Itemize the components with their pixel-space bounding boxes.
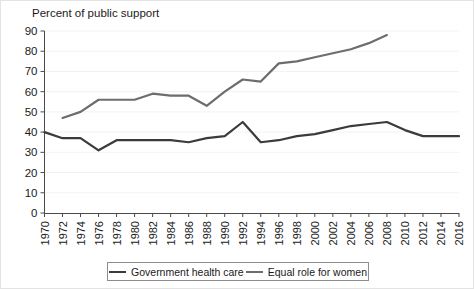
y-tick-label: 80 [25,45,38,57]
x-tick-label: 1978 [111,221,123,245]
x-axis-ticks-group: 1970197219741976197819801982198419861988… [39,213,466,245]
legend-item-government-health-care: Government health care [109,266,244,278]
x-tick-label: 2010 [399,221,411,245]
x-tick-label: 2008 [381,221,393,245]
y-tick-label: 0 [31,207,37,219]
y-tick-label: 30 [25,146,38,158]
legend-line-swatch-health-icon [109,271,126,273]
y-tick-label: 70 [25,65,38,77]
x-tick-label: 1984 [165,221,177,245]
x-tick-label: 1972 [57,221,69,245]
x-tick-label: 2004 [345,221,357,245]
x-tick-label: 1990 [219,221,231,245]
legend-line-swatch-equal-icon [246,271,263,273]
chart-plot-area: 0102030405060708090 19701972197419761978… [1,1,474,289]
x-tick-label: 2002 [327,221,339,245]
x-tick-label: 1970 [39,221,51,245]
y-tick-label: 50 [25,106,38,118]
gridlines-group [45,31,460,193]
x-tick-label: 1982 [147,221,159,245]
legend-label-equal-role-for-women: Equal role for women [268,266,367,278]
data-series-group [45,35,460,150]
chart-container: Percent of public support 01020304050607… [0,0,474,289]
x-tick-label: 1994 [255,221,267,245]
x-tick-label: 2012 [417,221,429,245]
x-tick-label: 1986 [183,221,195,245]
y-tick-label: 40 [25,126,38,138]
legend-item-equal-role-for-women: Equal role for women [246,266,367,278]
x-tick-label: 2000 [309,221,321,245]
x-tick-label: 1976 [93,221,105,245]
x-tick-label: 1974 [75,221,87,245]
series-line-government-health-care [45,122,460,150]
y-tick-label: 60 [25,86,38,98]
y-tick-label: 20 [25,167,38,179]
x-tick-label: 2006 [363,221,375,245]
chart-legend: Government health care Equal role for wo… [107,262,369,281]
x-tick-label: 1992 [237,221,249,245]
legend-label-government-health-care: Government health care [131,266,244,278]
x-tick-label: 2014 [435,221,447,245]
series-line-equal-role-for-women [63,35,387,118]
y-tick-label: 10 [25,187,38,199]
y-tick-label: 90 [25,25,38,37]
x-tick-label: 1980 [129,221,141,245]
x-tick-label: 2016 [453,221,465,245]
x-tick-label: 1988 [201,221,213,245]
y-axis-ticks-group: 0102030405060708090 [25,25,45,219]
x-tick-label: 1996 [273,221,285,245]
x-tick-label: 1998 [291,221,303,245]
